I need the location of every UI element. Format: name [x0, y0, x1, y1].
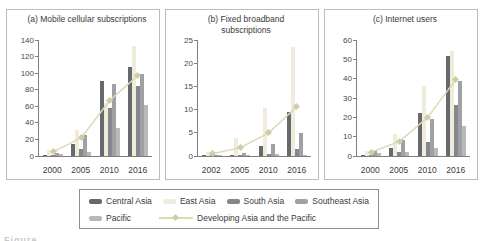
three-panel-chart-figure: (a) Mobile cellular subscriptions 020406…: [6, 9, 478, 180]
y-tick-label: 100: [21, 68, 34, 77]
x-tick-label: 2005: [67, 165, 96, 175]
y-tick-label: 120: [21, 52, 34, 61]
x-tick-label: 2016: [124, 165, 153, 175]
x-tick-label: 2010: [254, 165, 283, 175]
x-axis-labels: 2000200520102016: [356, 165, 470, 175]
y-tick-label: 40: [25, 118, 34, 127]
plot-area: 020406080100120140: [38, 40, 152, 157]
x-axis-labels: 2000200520102016: [38, 165, 152, 175]
x-tick-label: 2000: [356, 165, 385, 175]
legend-label: Central Asia: [106, 196, 152, 206]
plot-area: 0510152025: [197, 40, 311, 157]
legend-item-south-asia: South Asia: [227, 196, 285, 206]
legend-item-southeast-asia: Southeast Asia: [295, 196, 369, 206]
y-tick-label: 15: [184, 81, 193, 90]
y-tick-label: 30: [343, 93, 352, 102]
y-tick-label: 60: [343, 35, 352, 44]
trend-line: [198, 40, 311, 156]
legend-item-developing-asia-line: Developing Asia and the Pacific: [159, 213, 316, 223]
y-tick-label: 50: [343, 54, 352, 63]
x-tick-label: 2016: [283, 165, 312, 175]
y-tick-label: 20: [343, 112, 352, 121]
x-tick-label: 2000: [38, 165, 67, 175]
y-tick-label: 10: [184, 105, 193, 114]
legend-item-central-asia: Central Asia: [89, 196, 152, 206]
legend-label: Developing Asia and the Pacific: [197, 213, 316, 223]
y-tick-label: 0: [30, 151, 34, 160]
y-tick-label: 25: [184, 35, 193, 44]
chart-panel-internet-users: (c) Internet users 0102030405060 2000200…: [324, 9, 478, 180]
legend-label: South Asia: [244, 196, 285, 206]
line-sample-icon: [159, 217, 193, 219]
x-tick-label: 2002: [197, 165, 226, 175]
plot-area: 0102030405060: [356, 40, 470, 157]
central-asia-swatch-icon: [89, 199, 102, 204]
y-tick-label: 80: [25, 85, 34, 94]
y-tick-label: 10: [343, 132, 352, 141]
x-tick-label: 2005: [226, 165, 255, 175]
legend-label: Southeast Asia: [312, 196, 369, 206]
chart-title: (c) Internet users: [343, 14, 467, 25]
legend-item-pacific: Pacific: [89, 213, 131, 223]
diamond-marker-icon: [209, 150, 216, 157]
y-tick-label: 40: [343, 74, 352, 83]
legend-label: East Asia: [180, 196, 215, 206]
legend-label: Pacific: [106, 213, 131, 223]
y-tick-label: 0: [348, 151, 352, 160]
legend-row-1: Central Asia East Asia South Asia Southe…: [89, 196, 369, 206]
diamond-marker-icon: [172, 214, 179, 221]
legend-box: Central Asia East Asia South Asia Southe…: [79, 189, 379, 229]
y-tick-label: 20: [25, 134, 34, 143]
x-tick-label: 2005: [385, 165, 414, 175]
south-asia-swatch-icon: [227, 199, 240, 204]
legend-item-east-asia: East Asia: [163, 196, 215, 206]
x-tick-label: 2010: [413, 165, 442, 175]
y-tick-label: 0: [189, 151, 193, 160]
y-tick-label: 60: [25, 101, 34, 110]
cropped-figure-caption: Figure: [4, 235, 478, 241]
y-tick-label: 140: [21, 35, 34, 44]
trend-line: [357, 40, 470, 156]
chart-panel-fixed-broadband: (b) Fixed broadband subscriptions 051015…: [165, 9, 319, 180]
pacific-swatch-icon: [89, 216, 102, 221]
x-tick-label: 2010: [95, 165, 124, 175]
east-asia-swatch-icon: [163, 199, 176, 204]
trend-line: [39, 40, 152, 156]
southeast-asia-swatch-icon: [295, 199, 308, 204]
chart-title: (a) Mobile cellular subscriptions: [25, 14, 149, 25]
y-tick-label: 20: [184, 58, 193, 67]
y-tick-label: 5: [189, 128, 193, 137]
x-axis-labels: 2002200520102016: [197, 165, 311, 175]
legend-row-2: Pacific Developing Asia and the Pacific: [89, 213, 369, 223]
x-tick-label: 2016: [442, 165, 471, 175]
chart-panel-mobile-cellular: (a) Mobile cellular subscriptions 020406…: [6, 9, 160, 180]
chart-title: (b) Fixed broadband subscriptions: [184, 14, 308, 36]
